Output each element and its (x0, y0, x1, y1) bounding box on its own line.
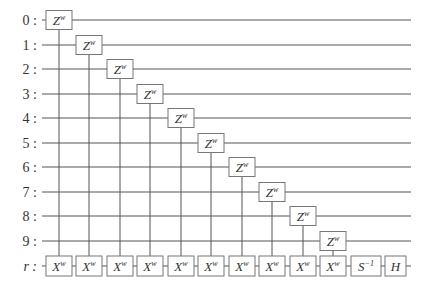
wires (42, 20, 411, 266)
z-power-gate: Zw (107, 60, 133, 79)
wire-label: 6 : (23, 160, 37, 175)
x-power-gate: Xw (320, 256, 346, 276)
wire-label: 4 : (23, 111, 37, 126)
wire-label: 8 : (23, 209, 37, 224)
x-power-gate: Xw (198, 256, 224, 276)
x-power-gate: Xw (168, 256, 194, 276)
wire-label: 3 : (23, 87, 37, 102)
x-power-gate: Xw (46, 256, 72, 276)
z-power-gate: Zw (259, 183, 285, 202)
quantum-circuit-diagram: ZwXwZwXwZwXwZwXwZwXwZwXwZwXwZwXwZwXwZwXw… (0, 0, 429, 295)
x-power-gate: Xw (290, 256, 316, 276)
s-inverse-gate: S−1 (351, 256, 381, 276)
wire-label: 5 : (23, 136, 37, 151)
x-power-gate: Xw (229, 256, 255, 276)
wire-label: 9 : (23, 234, 37, 249)
z-power-gate: Zw (290, 207, 316, 226)
z-power-gate: Zw (46, 11, 72, 30)
gate-label: H (390, 259, 401, 274)
wire-label: 7 : (23, 185, 37, 200)
z-power-gate: Zw (137, 85, 163, 104)
x-power-gate: Xw (107, 256, 133, 276)
hadamard-gate: H (385, 256, 406, 276)
z-power-gate: Zw (229, 158, 255, 177)
x-power-gate: Xw (137, 256, 163, 276)
wire-label: r : (23, 259, 37, 274)
wire-labels: 0 :1 :2 :3 :4 :5 :6 :7 :8 :9 :r : (23, 13, 37, 274)
z-power-gate: Zw (76, 36, 102, 55)
wire-label: 0 : (23, 13, 37, 28)
x-power-gate: Xw (76, 256, 102, 276)
z-power-gate: Zw (168, 109, 194, 128)
wire-label: 1 : (23, 38, 37, 53)
z-power-gate: Zw (320, 232, 346, 251)
wire-label: 2 : (23, 62, 37, 77)
x-power-gate: Xw (259, 256, 285, 276)
z-power-gate: Zw (198, 134, 224, 153)
